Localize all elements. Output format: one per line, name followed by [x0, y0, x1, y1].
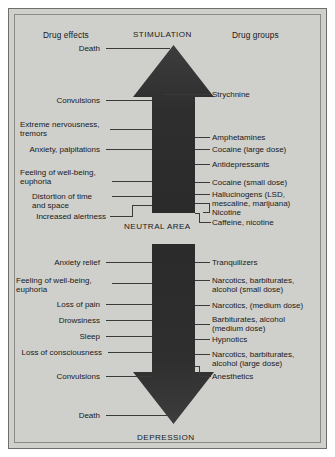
leader-narcotics-large	[195, 354, 210, 355]
effect-label-convulsions-top: Convulsions	[26, 96, 100, 105]
effect-label-sleep: Sleep	[56, 332, 100, 341]
leader-narcotics-medium	[195, 305, 210, 306]
leader-antidepressants	[195, 164, 210, 165]
leader-caffeine-riser	[199, 213, 200, 222]
effect-label-distortion: Distortion of time and space	[32, 192, 108, 211]
leader-distortion	[112, 196, 152, 197]
column-header-drug-effects: Drug effects	[43, 30, 89, 40]
leader-convulsions-bottom	[106, 376, 152, 377]
group-label-tranquilizers: Tranquilizers	[212, 258, 258, 267]
effect-label-drowsiness: Drowsiness	[44, 316, 100, 325]
leader-strychnine	[164, 94, 210, 95]
leader-extreme-nervousness	[110, 129, 152, 130]
leader-increased-alertness	[110, 216, 132, 217]
leader-sleep	[106, 336, 152, 337]
leader-loss-of-pain	[106, 304, 152, 305]
leader-anesthetics-foot	[199, 376, 211, 377]
leader-nicotine-riser	[209, 203, 210, 212]
leader-hypnotics	[195, 339, 210, 340]
leader-loss-of-consciousness	[108, 352, 152, 353]
leader-cocaine-small	[195, 182, 210, 183]
leader-death-bottom	[106, 415, 170, 416]
leader-anxiety-relief	[106, 262, 152, 263]
leader-amphetamines	[195, 137, 210, 138]
group-label-narcotics-medium: Narcotics, (medium dose)	[212, 301, 303, 310]
column-header-drug-groups: Drug groups	[232, 30, 279, 40]
group-label-hypnotics: Hypnotics	[212, 335, 247, 344]
leader-increased-alertness-riser	[132, 205, 133, 217]
leader-anxiety-palpitations	[106, 149, 152, 150]
group-label-antidepressants: Antidepressants	[212, 160, 269, 169]
leader-convulsions-top	[106, 100, 152, 101]
leader-caffeine-foot	[199, 222, 211, 223]
leader-narcotics-small	[195, 280, 210, 281]
effect-label-increased-alertness: Increased alertness	[26, 212, 106, 221]
leader-tranquilizers	[195, 262, 210, 263]
axis-label-depression: DEPRESSION	[137, 433, 195, 442]
leader-barbiturates-medium	[195, 324, 210, 325]
leader-anesthetics-riser	[199, 366, 200, 376]
leader-well-being-bottom	[112, 283, 152, 284]
group-label-anesthetics: Anesthetics	[212, 372, 253, 381]
effect-label-anxiety-palpitations: Anxiety, palpitations	[28, 145, 100, 154]
effect-label-well-being-top: Feeling of well-being, euphoria	[20, 168, 108, 187]
leader-increased-alertness-top	[132, 205, 152, 206]
group-label-barbiturates-medium: Barbiturates, alcohol (medium dose)	[212, 315, 285, 334]
effect-label-well-being-bottom: Feeling of well-being, euphoria	[16, 276, 108, 295]
group-label-nicotine: Nicotine	[212, 208, 241, 217]
leader-well-being-top	[112, 181, 152, 182]
axis-label-neutral-area: NEUTRAL AREA	[124, 222, 191, 231]
effect-label-death-top: Death	[36, 44, 100, 53]
group-label-hallucinogens: Hallucinogens (LSD, mescaline, marijuana…	[212, 190, 290, 209]
effect-label-anxiety-relief: Anxiety relief	[40, 258, 100, 267]
axis-label-stimulation: STIMULATION	[133, 30, 192, 39]
effect-label-extreme-nervousness: Extreme nervousness, tremors	[20, 120, 106, 139]
group-label-amphetamines: Amphetamines	[212, 133, 265, 142]
group-label-strychnine: Strychnine	[212, 90, 250, 99]
leader-drowsiness	[106, 320, 152, 321]
leader-nicotine-top	[195, 203, 210, 204]
figure-canvas: Drug effects STIMULATION Drug groups NEU…	[0, 0, 335, 457]
leader-nicotine-foot	[203, 212, 210, 213]
group-label-caffeine-nicotine: Caffeine, nicotine	[212, 218, 274, 227]
leader-cocaine-large	[195, 149, 210, 150]
group-label-narcotics-large: Narcotics, barbiturates, alcohol (large …	[212, 350, 294, 369]
effect-label-convulsions-bottom: Convulsions	[36, 372, 100, 381]
group-label-narcotics-small: Narcotics, barbiturates, alcohol (small …	[212, 276, 294, 295]
group-label-cocaine-small: Cocaine (small dose)	[212, 178, 287, 187]
leader-hallucinogens	[195, 194, 210, 195]
effect-label-loss-of-consciousness: Loss of consciousness	[20, 348, 102, 357]
group-label-cocaine-large: Cocaine (large dose)	[212, 145, 286, 154]
effect-label-loss-of-pain: Loss of pain	[44, 300, 100, 309]
effect-label-death-bottom: Death	[46, 411, 100, 420]
leader-death-top	[106, 48, 170, 49]
